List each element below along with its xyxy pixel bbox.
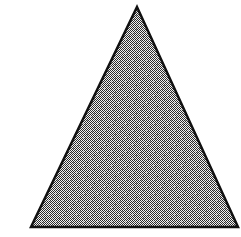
figure-canvas bbox=[0, 0, 241, 237]
triangle-figure-svg bbox=[0, 0, 241, 237]
